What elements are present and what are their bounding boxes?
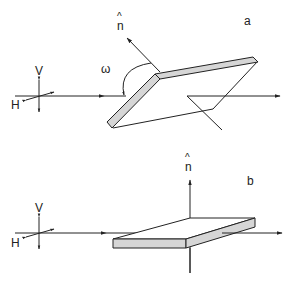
panel-a: a V H n ^ ω xyxy=(11,11,280,130)
plate-front-edge xyxy=(107,74,160,128)
diagram-canvas: a V H n ^ ω b V xyxy=(0,0,295,286)
plate-front-edge xyxy=(113,239,186,248)
vertical-polarization-label: V xyxy=(35,201,43,215)
panel-b: b V H n ^ xyxy=(11,152,282,273)
normal-hat: ^ xyxy=(117,11,122,22)
panel-b-label: b xyxy=(247,174,254,188)
normal-hat: ^ xyxy=(185,152,190,163)
angle-omega-label: ω xyxy=(101,62,110,76)
vertical-polarization-label: V xyxy=(35,64,43,78)
normal-vector-arrow xyxy=(127,38,160,72)
horizontal-polarization-label: H xyxy=(11,236,20,250)
horizontal-polarization-label: H xyxy=(11,98,20,112)
panel-a-label: a xyxy=(244,14,251,28)
plate-top-edge xyxy=(155,57,258,79)
